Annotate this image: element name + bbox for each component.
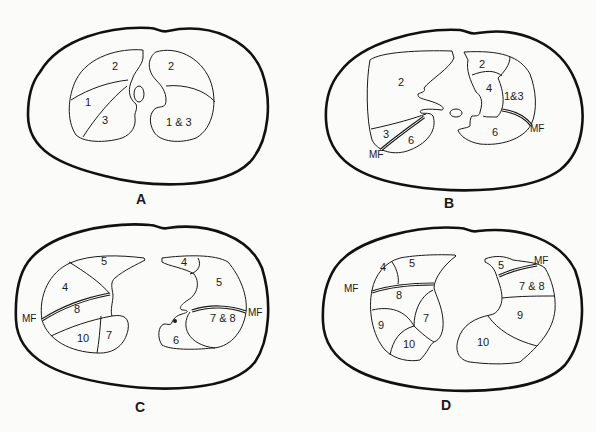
panel-c-bronchus-dot	[173, 319, 177, 323]
panel-c-left-line-10-7	[97, 316, 101, 353]
panel-b-right-fissure	[502, 110, 531, 125]
panel-d-seg-4-left: 4	[380, 261, 386, 273]
panel-a-left-lung-outline	[69, 50, 143, 142]
panel-b-seg-3: 3	[383, 128, 389, 140]
panel-c-seg-8-left: 8	[74, 303, 80, 315]
panel-c-left-lung-outline	[41, 256, 145, 353]
panel-d-mf-right: MF	[534, 255, 548, 266]
panel-c-label: C	[135, 399, 145, 415]
panel-c: 5 4 8 10 7 MF 4 5 7 & 8 6 MF C	[16, 224, 268, 415]
panel-d-seg-8-left: 8	[396, 289, 402, 301]
panel-a-left-line-1	[71, 80, 128, 100]
panel-d-right-fissure	[499, 265, 537, 276]
panel-a-label: A	[136, 191, 146, 207]
panel-d-label: D	[441, 397, 451, 413]
panel-b-mf-right: MF	[530, 123, 544, 134]
panel-b-seg-6-left: 6	[408, 134, 414, 146]
panel-a-left-line-2	[83, 86, 127, 137]
panel-c-seg-7-8-right: 7 & 8	[210, 312, 236, 324]
panel-d-seg-5-right: 5	[498, 259, 504, 271]
panel-a-trachea	[134, 86, 144, 102]
panel-c-seg-5-right: 5	[216, 276, 222, 288]
panel-d-seg-7-8-right: 7 & 8	[519, 280, 545, 292]
panel-d-seg-9-right: 9	[517, 309, 523, 321]
lung-segment-figure: 2 1 3 2 1 & 3 A 2 3 6 MF 2 4 1&3 6 MF B	[0, 0, 596, 432]
panel-d-seg-9-left: 9	[378, 319, 384, 331]
panel-b-mf-left: MF	[369, 149, 383, 160]
panel-c-seg-7-left: 7	[106, 329, 112, 341]
panel-a-seg-2-right: 2	[168, 60, 174, 72]
panel-d-mf-left: MF	[344, 283, 358, 294]
panel-d-seg-7-left: 7	[423, 312, 429, 324]
panel-b-trachea	[450, 109, 462, 117]
panel-a-right-line	[166, 86, 215, 102]
panel-b-seg-2-right: 2	[479, 58, 485, 70]
panel-b: 2 3 6 MF 2 4 1&3 6 MF B	[326, 30, 583, 211]
panel-b-body-outline	[326, 30, 583, 190]
panel-b-seg-2-left: 2	[398, 76, 404, 88]
panel-c-mf-right: MF	[248, 307, 262, 318]
panel-a-seg-2-left: 2	[112, 60, 118, 72]
panel-d-seg-10-right: 10	[477, 336, 489, 348]
panel-c-right-lung-outline	[159, 256, 247, 349]
panel-a: 2 1 3 2 1 & 3 A	[28, 28, 268, 207]
panel-b-right-line-a	[472, 71, 502, 76]
panel-c-seg-4-right: 4	[181, 256, 187, 268]
panel-c-mf-left: MF	[22, 313, 36, 324]
panel-b-seg-4: 4	[486, 82, 492, 94]
panel-a-seg-1-3: 1 & 3	[166, 116, 192, 128]
panel-d-left-line-4-5	[392, 262, 398, 284]
panel-a-seg-1: 1	[85, 96, 91, 108]
panel-d: 4 5 8 9 7 10 MF 5 7 & 8 9 10 MF D	[323, 228, 582, 413]
panel-d-seg-10-left: 10	[403, 338, 415, 350]
panel-d-right-line-78-9	[502, 296, 555, 298]
panel-d-seg-5-left: 5	[409, 257, 415, 269]
panel-c-seg-4-left: 4	[62, 281, 68, 293]
panel-b-seg-6-right: 6	[492, 126, 498, 138]
panel-d-right-line-9-10	[488, 316, 537, 346]
panel-c-right-line-4	[190, 258, 200, 274]
panel-c-seg-6-right: 6	[173, 334, 179, 346]
panel-d-body-outline	[323, 228, 582, 391]
panel-c-seg-10-left: 10	[77, 332, 89, 344]
panel-a-body-outline	[28, 28, 268, 185]
panel-b-label: B	[444, 195, 454, 211]
panel-b-seg-1-3: 1&3	[504, 90, 524, 102]
panel-c-seg-5-left: 5	[101, 255, 107, 267]
panel-a-seg-3: 3	[102, 114, 108, 126]
